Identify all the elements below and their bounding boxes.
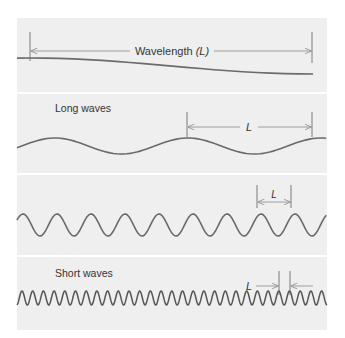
medium-wavelength-L: L <box>271 189 277 200</box>
panel-medium-waves <box>17 175 327 255</box>
long-waves-label: Long waves <box>55 102 111 114</box>
wavelength-label: Wavelength (L) <box>135 45 210 57</box>
short-waves-label: Short waves <box>55 267 113 279</box>
long-wavelength-L: L <box>246 121 252 133</box>
wavelength-diagram: Wavelength (L) Long waves L L Short wave… <box>0 0 345 338</box>
short-wavelength-L: L <box>246 280 252 292</box>
